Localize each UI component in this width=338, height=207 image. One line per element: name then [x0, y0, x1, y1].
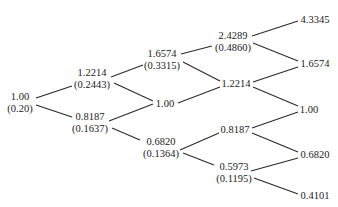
tree-edge [109, 104, 153, 121]
tree-edge [181, 46, 212, 54]
tree-node-n3_1: 1.2214 [222, 78, 251, 90]
tree-node-n1_1: 0.8187 (0.1637) [72, 111, 108, 134]
tree-node-n4_3: 0.6820 [301, 149, 330, 161]
tree-edge [252, 112, 298, 128]
node-probability: (0.2443) [74, 78, 110, 90]
tree-edge [36, 86, 72, 98]
tree-edge [180, 133, 219, 150]
tree-edge [183, 62, 220, 81]
tree-node-n1_0: 1.2214 (0.2443) [74, 67, 110, 90]
node-probability: (0.1637) [72, 122, 108, 134]
tree-node-n4_1: 1.6574 [301, 58, 330, 70]
binomial-tree-diagram: 1.00 (0.20) 1.2214 (0.2443) 0.8187 (0.16… [0, 0, 338, 207]
tree-node-n3_2: 0.8187 [221, 124, 250, 136]
node-value: 0.6820 [301, 149, 330, 161]
tree-edge [253, 87, 298, 106]
node-value: 0.8187 [221, 124, 250, 136]
tree-node-n2_0: 1.6574 (0.3315) [144, 48, 180, 71]
node-probability: (0.20) [7, 102, 32, 114]
tree-node-n2_2: 0.6820 (0.1364) [143, 136, 179, 159]
tree-edge [183, 153, 214, 165]
tree-edge [178, 87, 220, 103]
tree-edge [114, 83, 153, 101]
node-value: 1.6574 [301, 58, 330, 70]
tree-edge [253, 67, 298, 82]
tree-edge [112, 128, 140, 140]
node-value: 0.8187 [72, 111, 108, 123]
tree-node-n0_0: 1.00 (0.20) [7, 91, 32, 114]
node-value: 0.5973 [216, 161, 251, 173]
tree-edge [252, 21, 298, 36]
node-probability: (0.1195) [216, 172, 251, 184]
tree-node-n4_4: 0.4101 [301, 190, 330, 202]
node-probability: (0.1364) [143, 147, 179, 159]
tree-edge [111, 65, 143, 77]
tree-node-n3_0: 2.4289 (0.4860) [215, 30, 251, 53]
tree-edge [252, 133, 298, 152]
node-probability: (0.3315) [144, 59, 180, 71]
tree-node-n4_0: 4.3345 [301, 14, 330, 26]
tree-node-n3_3: 0.5973 (0.1195) [216, 161, 251, 184]
tree-edge [254, 178, 298, 194]
node-value: 1.00 [300, 104, 318, 116]
tree-node-n4_2: 1.00 [300, 104, 318, 116]
node-value: 1.6574 [144, 48, 180, 60]
node-value: 1.2214 [74, 67, 110, 79]
node-value: 1.00 [7, 91, 32, 103]
tree-edge [253, 43, 298, 61]
tree-node-n2_1: 1.00 [156, 98, 174, 110]
node-value: 0.6820 [143, 136, 179, 148]
tree-edge [251, 158, 298, 171]
node-value: 1.2214 [222, 78, 251, 90]
tree-edge [36, 105, 72, 117]
node-value: 2.4289 [215, 30, 251, 42]
node-value: 1.00 [156, 98, 174, 110]
node-value: 4.3345 [301, 14, 330, 26]
node-probability: (0.4860) [215, 41, 251, 53]
node-value: 0.4101 [301, 190, 330, 202]
